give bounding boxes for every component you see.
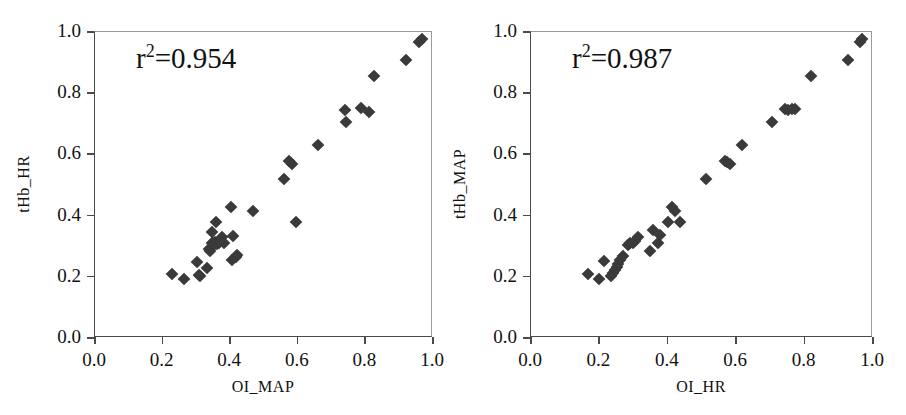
- x-axis-tick: [229, 337, 231, 344]
- x-axis-tick: [297, 337, 299, 344]
- x-axis-tick: [162, 337, 164, 344]
- data-point: [674, 216, 687, 229]
- x-axis-tick: [94, 337, 96, 344]
- chart-panel-left: 0.00.20.40.60.81.00.00.20.40.60.81.0OI_M…: [0, 0, 453, 415]
- y-axis-tick: [87, 153, 94, 155]
- x-axis-tick-label: 0.4: [199, 350, 259, 369]
- y-axis-tick: [523, 276, 530, 278]
- plot-area: [94, 31, 432, 337]
- y-axis-title: tHb_HR: [16, 64, 32, 304]
- y-axis-tick: [87, 31, 94, 33]
- x-axis-tick-label: 0.0: [500, 350, 560, 369]
- data-series: [95, 32, 431, 336]
- x-axis-tick-label: 0.0: [64, 350, 124, 369]
- y-axis-tick: [87, 215, 94, 217]
- x-axis-title: OI_MAP: [143, 379, 383, 395]
- x-axis-tick: [598, 337, 600, 344]
- x-axis-tick-label: 0.8: [774, 350, 834, 369]
- data-point: [278, 173, 291, 186]
- x-axis-tick: [364, 337, 366, 344]
- data-point: [592, 273, 605, 286]
- data-series: [531, 32, 871, 336]
- data-point: [312, 139, 325, 152]
- x-axis-tick-label: 0.2: [132, 350, 192, 369]
- data-point: [842, 54, 855, 67]
- r-squared-value: =0.954: [155, 42, 237, 74]
- chart-panel-right: 0.00.20.40.60.81.00.00.20.40.60.81.0OI_H…: [453, 0, 906, 415]
- y-axis-tick-label: 0.0: [457, 327, 517, 346]
- y-axis-tick: [523, 337, 530, 339]
- x-axis-tick: [804, 337, 806, 344]
- x-axis-tick-label: 1.0: [842, 350, 902, 369]
- x-axis-tick-label: 0.6: [267, 350, 327, 369]
- x-axis-tick-label: 0.8: [334, 350, 394, 369]
- data-point: [736, 139, 749, 152]
- x-axis-tick-label: 0.6: [705, 350, 765, 369]
- y-axis-tick-label: 0.0: [21, 327, 81, 346]
- r-squared-exponent: 2: [146, 41, 155, 61]
- x-axis-title: OI_HR: [581, 379, 821, 395]
- x-axis-tick: [530, 337, 532, 344]
- data-point: [338, 104, 351, 117]
- r-squared-base: r: [572, 42, 582, 74]
- y-axis-tick: [87, 337, 94, 339]
- data-point: [766, 115, 779, 128]
- r-squared-annotation: r2=0.987: [572, 44, 672, 73]
- data-point: [661, 216, 674, 229]
- y-axis-tick: [523, 153, 530, 155]
- r-squared-exponent: 2: [582, 41, 591, 61]
- plot-area: [530, 31, 872, 337]
- r-squared-annotation: r2=0.954: [136, 44, 236, 73]
- data-point: [598, 255, 611, 268]
- data-point: [400, 54, 413, 67]
- x-axis-tick-label: 0.2: [568, 350, 628, 369]
- y-axis-title: tHb_MAP: [452, 64, 468, 304]
- scatter-figure: 0.00.20.40.60.81.00.00.20.40.60.81.0OI_M…: [0, 0, 906, 415]
- data-point: [177, 273, 190, 286]
- r-squared-value: =0.987: [591, 42, 673, 74]
- data-point: [290, 216, 303, 229]
- x-axis-tick: [735, 337, 737, 344]
- data-point: [225, 201, 238, 214]
- x-axis-tick-label: 0.4: [637, 350, 697, 369]
- y-axis-tick: [87, 276, 94, 278]
- y-axis-tick: [523, 215, 530, 217]
- x-axis-tick: [432, 337, 434, 344]
- data-point: [246, 205, 259, 218]
- y-axis-tick: [523, 31, 530, 33]
- data-point: [700, 173, 713, 186]
- r-squared-base: r: [136, 42, 146, 74]
- y-axis-tick: [523, 92, 530, 94]
- data-point: [368, 70, 381, 83]
- x-axis-tick: [872, 337, 874, 344]
- x-axis-tick: [667, 337, 669, 344]
- y-axis-tick-label: 1.0: [457, 21, 517, 40]
- data-point: [340, 115, 353, 128]
- y-axis-tick: [87, 92, 94, 94]
- y-axis-tick-label: 1.0: [21, 21, 81, 40]
- data-point: [644, 245, 657, 258]
- data-point: [804, 70, 817, 83]
